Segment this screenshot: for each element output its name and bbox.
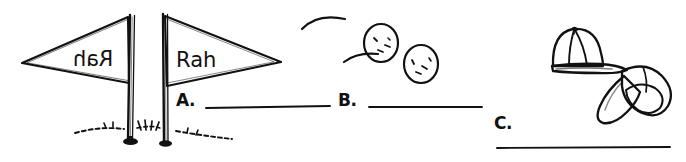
- answer-label-b: B.: [338, 92, 356, 109]
- pennant-flag-right: Rah: [165, 16, 281, 86]
- flag-pole-right: [159, 14, 172, 147]
- baseball-cap-upright: [552, 28, 627, 73]
- worksheet-illustration: Rah Rah: [0, 0, 686, 162]
- answer-blank-line-c[interactable]: [497, 147, 670, 148]
- pennant-flag-right-text: Rah: [176, 48, 216, 72]
- illustration-canvas: Rah Rah: [0, 0, 686, 162]
- pennant-flag-left: Rah: [22, 17, 129, 83]
- answer-blank-line-a[interactable]: [206, 106, 330, 108]
- ball-lower: [404, 45, 438, 83]
- ground-grass-line: [75, 120, 232, 139]
- answer-label-c: C.: [494, 115, 512, 132]
- baseball-cap-tumbling: [598, 67, 671, 124]
- ball-upper: [364, 24, 398, 62]
- motion-arc-upper: [302, 17, 345, 29]
- pennant-flag-left-text: Rah: [73, 47, 113, 71]
- answer-label-a: A.: [176, 92, 195, 109]
